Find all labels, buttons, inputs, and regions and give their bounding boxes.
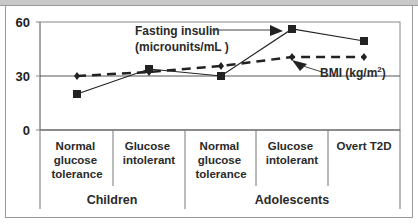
y-tick-60: 60: [16, 15, 30, 30]
arrow-head-icon: [270, 25, 283, 36]
y-axis: 60 30 0: [16, 15, 40, 138]
category-label: Overt T2D: [337, 140, 392, 152]
group-label-children: Children: [87, 193, 138, 207]
category-label: Glucose intolerant: [266, 140, 319, 166]
arrow-head-icon: [292, 60, 307, 71]
category-label: Normal glucose tolerance: [51, 140, 102, 180]
category-label: Glucose intolerant: [123, 140, 176, 166]
x-category-labels: Normal glucose tolerance Glucose intoler…: [51, 140, 391, 180]
y-tick-0: 0: [23, 123, 30, 138]
svg-text:Fasting insulin: Fasting insulin: [135, 24, 220, 38]
svg-text:(microunits/mL ): (microunits/mL ): [135, 40, 229, 54]
svg-text:BMI (kg/m2): BMI (kg/m2): [320, 65, 386, 80]
annotation-bmi: BMI (kg/m2): [292, 60, 386, 80]
category-label: Normal glucose tolerance: [195, 140, 246, 180]
line-chart: 60 30 0 Normal glucose tolerance Glucose…: [0, 0, 418, 224]
series-fasting-insulin: [73, 25, 368, 98]
group-label-adolescents: Adolescents: [255, 193, 329, 207]
y-tick-30: 30: [16, 69, 30, 84]
